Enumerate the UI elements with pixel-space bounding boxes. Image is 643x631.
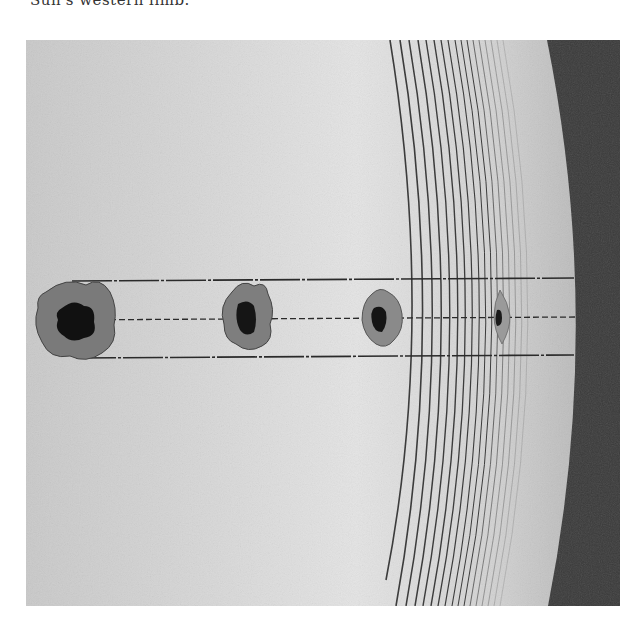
sunspot-1 [36, 282, 116, 360]
figure-caption: Sun's western limb. [30, 0, 190, 9]
sunspot-figure [26, 40, 620, 606]
